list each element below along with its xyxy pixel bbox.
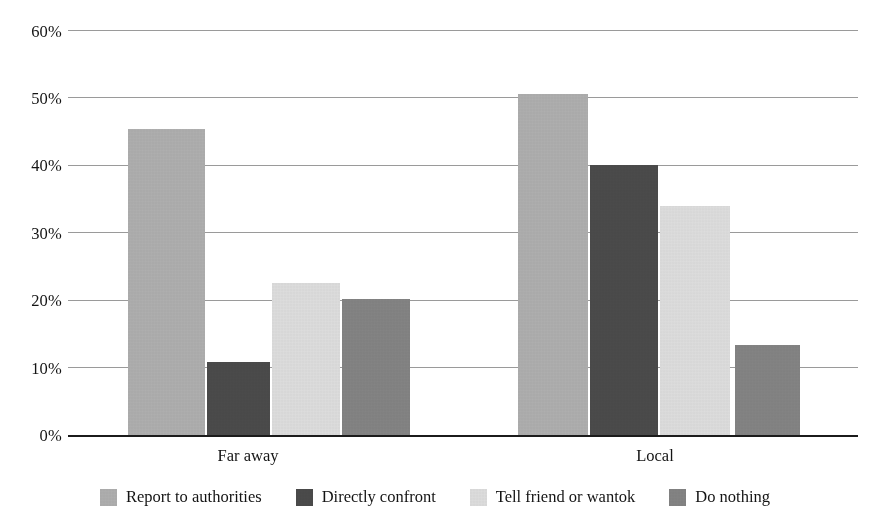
bar-fill [207, 362, 270, 435]
swatch-texture [470, 489, 487, 506]
legend-swatch-icon [100, 489, 117, 506]
bar-local-do-nothing [735, 345, 800, 436]
legend-label: Tell friend or wantok [496, 489, 636, 506]
bar-local-tell-friend-or-wantok [660, 206, 730, 436]
bar-fill [272, 283, 340, 435]
plot-area [68, 30, 858, 437]
y-tick-label-60: 60% [0, 24, 62, 41]
bar-fill [735, 345, 800, 436]
bar-fill [660, 206, 730, 436]
legend-item-directly-confront: Directly confront [296, 489, 436, 506]
gridline-50 [68, 97, 858, 98]
gridline-60 [68, 30, 858, 31]
x-category-label-local: Local [595, 446, 715, 466]
y-axis-labels: 60% 50% 40% 30% 20% 10% 0% [0, 0, 62, 531]
chart-legend: Report to authorities Directly confront … [0, 482, 870, 512]
legend-item-tell-friend-or-wantok: Tell friend or wantok [470, 489, 636, 506]
legend-swatch-icon [669, 489, 686, 506]
x-category-label-far-away: Far away [188, 446, 308, 466]
legend-item-report-to-authorities: Report to authorities [100, 489, 262, 506]
legend-label: Report to authorities [126, 489, 262, 506]
legend-label: Do nothing [695, 489, 770, 506]
legend-swatch-icon [470, 489, 487, 506]
bar-far-away-directly-confront [207, 362, 270, 435]
swatch-texture [296, 489, 313, 506]
legend-label: Directly confront [322, 489, 436, 506]
y-tick-label-30: 30% [0, 226, 62, 243]
y-tick-label-40: 40% [0, 158, 62, 175]
bar-chart: 60% 50% 40% 30% 20% 10% 0% [0, 0, 870, 531]
swatch-texture [100, 489, 117, 506]
bar-local-report-to-authorities [518, 94, 588, 435]
bar-fill [518, 94, 588, 435]
bar-far-away-tell-friend-or-wantok [272, 283, 340, 435]
swatch-texture [669, 489, 686, 506]
bar-local-directly-confront [590, 165, 658, 435]
y-tick-label-20: 20% [0, 293, 62, 310]
x-axis-line [68, 435, 858, 437]
y-tick-label-0: 0% [0, 428, 62, 445]
legend-swatch-icon [296, 489, 313, 506]
legend-item-do-nothing: Do nothing [669, 489, 770, 506]
bar-far-away-do-nothing [342, 299, 410, 435]
bar-fill [590, 165, 658, 435]
y-tick-label-10: 10% [0, 361, 62, 378]
bar-far-away-report-to-authorities [128, 129, 205, 435]
y-tick-label-50: 50% [0, 91, 62, 108]
bar-fill [128, 129, 205, 435]
bar-fill [342, 299, 410, 435]
